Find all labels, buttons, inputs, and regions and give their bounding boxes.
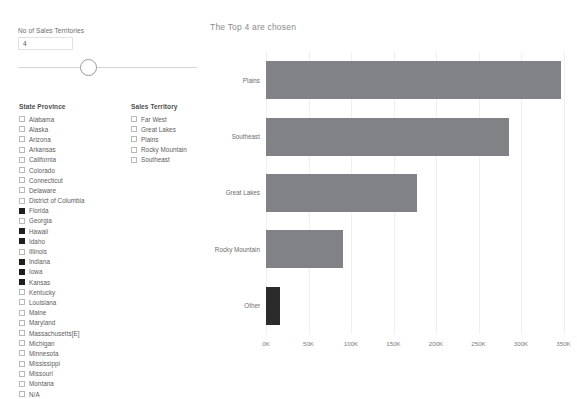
- checkbox-unchecked-icon[interactable]: [19, 391, 25, 397]
- slider-rail[interactable]: [18, 57, 203, 79]
- state-province-item-label: Minnesota: [29, 350, 59, 357]
- state-province-item[interactable]: Hawaii: [19, 226, 119, 236]
- state-province-item[interactable]: N/A: [19, 389, 119, 399]
- checkbox-checked-icon[interactable]: [19, 279, 25, 285]
- state-province-item[interactable]: Massachusetts[E]: [19, 328, 119, 338]
- checkbox-unchecked-icon[interactable]: [19, 330, 25, 336]
- checkbox-checked-icon[interactable]: [19, 208, 25, 214]
- state-province-item[interactable]: Florida: [19, 206, 119, 216]
- checkbox-unchecked-icon[interactable]: [19, 371, 25, 377]
- state-province-item-label: Louisiana: [29, 299, 56, 306]
- checkbox-unchecked-icon[interactable]: [19, 167, 25, 173]
- state-province-item[interactable]: Indiana: [19, 257, 119, 267]
- state-province-item[interactable]: Minnesota: [19, 348, 119, 358]
- state-province-item[interactable]: Arizona: [19, 134, 119, 144]
- state-province-item-label: Alabama: [29, 116, 54, 123]
- state-province-item[interactable]: Mississippi: [19, 359, 119, 369]
- state-province-item[interactable]: California: [19, 155, 119, 165]
- state-province-item[interactable]: Maryland: [19, 318, 119, 328]
- state-province-item-label: Maryland: [29, 319, 55, 326]
- state-province-item[interactable]: Arkansas: [19, 145, 119, 155]
- state-province-item[interactable]: Illinois: [19, 246, 119, 256]
- checkbox-unchecked-icon[interactable]: [19, 299, 25, 305]
- checkbox-unchecked-icon[interactable]: [131, 147, 137, 153]
- chart-bar-row[interactable]: Southeast: [266, 108, 572, 164]
- state-province-item[interactable]: District of Columbia: [19, 196, 119, 206]
- state-province-item[interactable]: Michigan: [19, 338, 119, 348]
- state-province-item[interactable]: Idaho: [19, 236, 119, 246]
- chart-bar-row[interactable]: Great Lakes: [266, 165, 572, 221]
- state-province-item[interactable]: Georgia: [19, 216, 119, 226]
- state-province-item[interactable]: Missouri: [19, 369, 119, 379]
- state-province-item[interactable]: Montana: [19, 379, 119, 389]
- state-province-item[interactable]: Colorado: [19, 165, 119, 175]
- chart-bar[interactable]: [266, 230, 343, 268]
- checkbox-unchecked-icon[interactable]: [19, 218, 25, 224]
- chart-bar[interactable]: [266, 118, 509, 156]
- sales-territory-filter-title: Sales Territory: [131, 103, 213, 110]
- chart-bar[interactable]: [266, 287, 280, 325]
- chart-bar[interactable]: [266, 61, 561, 99]
- chart-x-tick-label: 100K: [344, 340, 358, 347]
- checkbox-checked-icon[interactable]: [19, 259, 25, 265]
- chart-category-label: Plains: [243, 77, 260, 84]
- state-province-item[interactable]: Connecticut: [19, 175, 119, 185]
- checkbox-unchecked-icon[interactable]: [19, 126, 25, 132]
- slider-value-input[interactable]: 4: [18, 37, 73, 50]
- state-province-item[interactable]: Iowa: [19, 267, 119, 277]
- checkbox-unchecked-icon[interactable]: [19, 147, 25, 153]
- chart-bar-row[interactable]: Rocky Mountain: [266, 221, 572, 277]
- chart-category-label: Southeast: [232, 133, 260, 140]
- state-province-item-label: Idaho: [29, 238, 45, 245]
- checkbox-unchecked-icon[interactable]: [19, 310, 25, 316]
- state-province-item-label: Alaska: [29, 126, 48, 133]
- chart-category-label: Rocky Mountain: [215, 246, 260, 253]
- state-province-item-label: Kentucky: [29, 289, 55, 296]
- checkbox-unchecked-icon[interactable]: [19, 177, 25, 183]
- checkbox-unchecked-icon[interactable]: [19, 361, 25, 367]
- state-province-item[interactable]: Kentucky: [19, 287, 119, 297]
- slider-thumb-handle[interactable]: [80, 59, 97, 76]
- state-province-item-label: California: [29, 156, 56, 163]
- chart-plot-area: PlainsSoutheastGreat LakesRocky Mountain…: [210, 52, 572, 362]
- checkbox-checked-icon[interactable]: [19, 269, 25, 275]
- checkbox-unchecked-icon[interactable]: [131, 116, 137, 122]
- sales-territory-item[interactable]: Rocky Mountain: [131, 145, 213, 155]
- state-province-item[interactable]: Maine: [19, 308, 119, 318]
- checkbox-checked-icon[interactable]: [19, 228, 25, 234]
- checkbox-checked-icon[interactable]: [19, 238, 25, 244]
- state-province-item[interactable]: Kansas: [19, 277, 119, 287]
- chart-x-tick-label: 200K: [429, 340, 443, 347]
- state-province-item[interactable]: Alabama: [19, 114, 119, 124]
- sales-territory-item[interactable]: Plains: [131, 134, 213, 144]
- checkbox-unchecked-icon[interactable]: [19, 340, 25, 346]
- chart-bar-row[interactable]: Plains: [266, 52, 572, 108]
- chart-bar-row[interactable]: Other: [266, 278, 572, 334]
- slider-track[interactable]: [18, 67, 197, 68]
- checkbox-unchecked-icon[interactable]: [19, 249, 25, 255]
- checkbox-unchecked-icon[interactable]: [19, 381, 25, 387]
- checkbox-unchecked-icon[interactable]: [19, 320, 25, 326]
- checkbox-unchecked-icon[interactable]: [19, 350, 25, 356]
- checkbox-unchecked-icon[interactable]: [131, 126, 137, 132]
- state-province-item[interactable]: Delaware: [19, 185, 119, 195]
- sales-territory-item[interactable]: Far West: [131, 114, 213, 124]
- checkbox-unchecked-icon[interactable]: [19, 157, 25, 163]
- state-province-item-label: Hawaii: [29, 228, 48, 235]
- chart-bar[interactable]: [266, 174, 417, 212]
- checkbox-unchecked-icon[interactable]: [19, 136, 25, 142]
- checkbox-unchecked-icon[interactable]: [131, 136, 137, 142]
- checkbox-unchecked-icon[interactable]: [19, 116, 25, 122]
- state-province-item-label: Maine: [29, 309, 46, 316]
- checkbox-unchecked-icon[interactable]: [19, 198, 25, 204]
- sales-territory-item[interactable]: Great Lakes: [131, 124, 213, 134]
- chart-x-tick-label: 50K: [303, 340, 314, 347]
- checkbox-unchecked-icon[interactable]: [19, 187, 25, 193]
- sales-territory-item[interactable]: Southeast: [131, 155, 213, 165]
- chart-x-axis: 0K50K100K150K200K250K300K350K: [266, 340, 572, 354]
- state-province-item[interactable]: Alaska: [19, 124, 119, 134]
- chart-x-tick-label: 150K: [386, 340, 400, 347]
- checkbox-unchecked-icon[interactable]: [131, 157, 137, 163]
- state-province-item[interactable]: Louisiana: [19, 297, 119, 307]
- checkbox-unchecked-icon[interactable]: [19, 289, 25, 295]
